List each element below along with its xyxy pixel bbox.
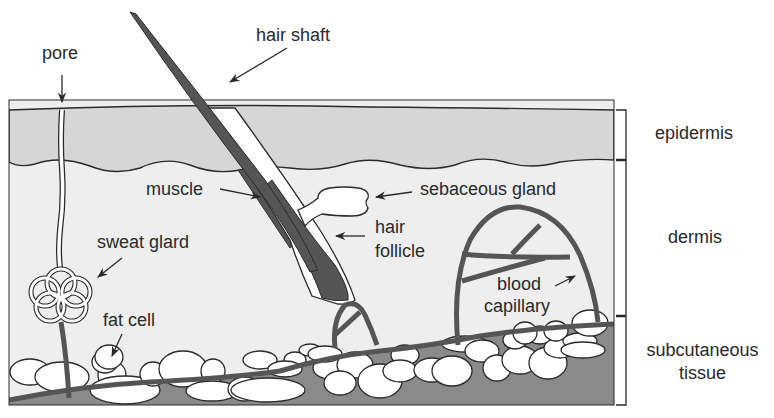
label-pore: pore <box>42 44 78 63</box>
label-sebaceous-gland: sebaceous gland <box>420 180 556 199</box>
label-hair-follicle-line2: follicle <box>375 242 425 261</box>
label-subcutaneous: subcutaneous <box>635 341 770 360</box>
label-blood-capillary-line1: blood <box>494 275 544 294</box>
label-hair-follicle-line1: hair <box>375 218 405 237</box>
layer-brackets <box>616 110 626 405</box>
label-blood-capillary-line2: capillary <box>484 297 550 316</box>
label-epidermis: epidermis <box>655 124 733 143</box>
fat-cell <box>95 345 123 369</box>
label-tissue: tissue <box>635 364 770 383</box>
label-hair-shaft: hair shaft <box>256 26 330 45</box>
label-dermis: dermis <box>668 228 722 247</box>
label-muscle: muscle <box>146 180 203 199</box>
label-sweat-gland: sweat glard <box>97 233 189 252</box>
skin-diagram: pore hair shaft muscle sebaceous gland h… <box>0 0 774 418</box>
label-fat-cell: fat cell <box>103 311 155 330</box>
hair-shaft-arrow <box>230 48 287 82</box>
epidermis-layer <box>9 106 614 172</box>
